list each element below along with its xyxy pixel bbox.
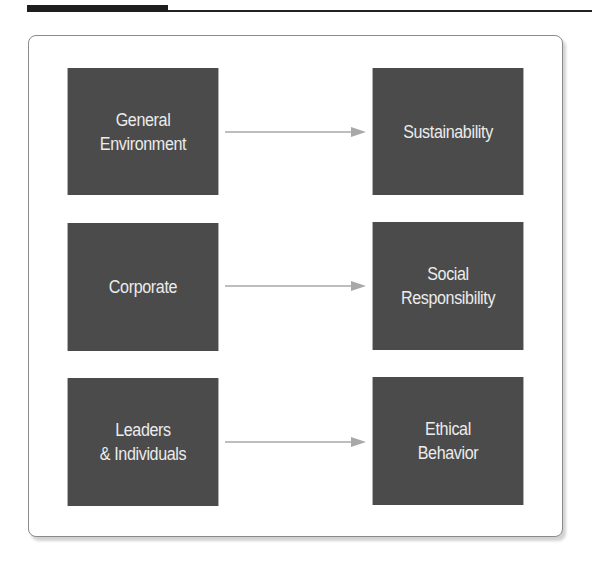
arrow-leaders-to-ethical-behavior [225, 437, 367, 447]
box-ethical-behavior: Ethical Behavior [373, 377, 524, 505]
box-label: Ethical Behavior [418, 417, 479, 465]
box-leaders-individuals: Leaders & Individuals [68, 378, 219, 506]
box-corporate: Corporate [68, 223, 219, 351]
header-accent-bar [27, 5, 168, 12]
box-label: Leaders & Individuals [100, 418, 187, 466]
box-label: General Environment [100, 108, 186, 156]
box-social-responsibility: Social Responsibility [373, 222, 524, 350]
box-label: Social Responsibility [401, 262, 495, 310]
box-label: Corporate [109, 275, 177, 299]
box-label: Sustainability [403, 120, 493, 144]
arrow-general-environment-to-sustainability [225, 127, 367, 137]
arrow-corporate-to-social-responsibility [225, 281, 367, 291]
box-sustainability: Sustainability [373, 68, 524, 195]
box-general-environment: General Environment [68, 68, 219, 195]
